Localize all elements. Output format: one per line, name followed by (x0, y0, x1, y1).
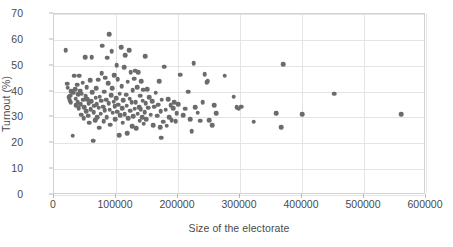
data-point (119, 84, 124, 89)
data-point (100, 43, 105, 48)
data-point (121, 98, 126, 103)
data-point (96, 77, 101, 82)
data-point (181, 113, 186, 118)
x-axis-tick-label: 600000 (407, 198, 442, 210)
data-point (222, 73, 227, 78)
data-point (122, 65, 127, 70)
data-point (105, 55, 110, 60)
y-axis-tick-label: 60 (0, 33, 23, 45)
data-point (99, 71, 104, 76)
x-axis-tick-mark (115, 194, 116, 198)
data-point (77, 74, 82, 79)
data-point (117, 133, 122, 138)
data-point (174, 111, 179, 116)
data-point (119, 45, 124, 50)
scatter-chart: Turnout (%) 010203040506070 010000020000… (0, 0, 453, 247)
data-point (166, 97, 171, 102)
gridline-vertical (426, 14, 427, 193)
data-point (109, 49, 114, 54)
data-point (91, 138, 96, 143)
data-point (146, 105, 151, 110)
data-point (87, 121, 92, 126)
y-axis-tick-label: 10 (0, 162, 23, 174)
data-point (157, 79, 162, 84)
data-point (121, 120, 126, 125)
data-point (151, 123, 156, 128)
data-point (139, 79, 144, 84)
data-point (202, 72, 207, 77)
data-point (210, 123, 215, 128)
data-point (155, 114, 160, 119)
data-point (134, 100, 139, 105)
data-point (126, 116, 131, 121)
data-point (109, 93, 114, 98)
data-point (207, 118, 212, 123)
y-axis-tick-label: 50 (0, 59, 23, 71)
data-point (103, 75, 108, 80)
data-point (90, 55, 95, 60)
data-point (63, 48, 68, 53)
data-point (123, 53, 128, 58)
gridline-horizontal (54, 40, 424, 41)
data-point (160, 98, 165, 103)
gridline-horizontal (54, 66, 424, 67)
data-point (72, 73, 77, 78)
data-point (186, 89, 191, 94)
x-axis-tick-label: 300000 (221, 198, 256, 210)
data-point (300, 112, 305, 117)
data-point (143, 54, 148, 59)
x-axis-tick-mark (53, 194, 54, 198)
data-point (196, 110, 201, 115)
data-point (91, 110, 96, 115)
data-point (114, 63, 119, 68)
y-axis-tick-label: 30 (0, 110, 23, 122)
data-point (132, 76, 137, 81)
data-point (68, 100, 73, 105)
data-point (113, 117, 118, 122)
data-point (142, 121, 147, 126)
data-point (86, 114, 91, 119)
x-axis-tick-mark (239, 194, 240, 198)
x-axis-tick-label: 400000 (283, 198, 318, 210)
gridline-horizontal (54, 169, 424, 170)
x-axis-label: Size of the electorate (53, 222, 425, 234)
data-point (178, 72, 183, 77)
data-point (183, 106, 188, 111)
data-point (188, 117, 193, 122)
x-axis-tick-mark (425, 194, 426, 198)
data-point (124, 103, 129, 108)
data-point (205, 79, 210, 84)
data-point (110, 86, 115, 91)
gridline-horizontal (54, 143, 424, 144)
gridline-vertical (364, 14, 365, 193)
data-point (193, 105, 198, 110)
data-point (117, 91, 122, 96)
data-point (332, 91, 337, 96)
x-axis-tick-label: 100000 (97, 198, 132, 210)
data-point (153, 90, 158, 95)
data-point (191, 61, 196, 66)
data-point (176, 102, 181, 107)
data-point (173, 119, 178, 124)
data-point (163, 107, 168, 112)
data-point (281, 62, 286, 67)
x-axis-tick-label: 0 (50, 198, 56, 210)
gridline-horizontal (54, 117, 424, 118)
gridline-horizontal (54, 14, 424, 15)
data-point (158, 109, 163, 114)
x-axis-tick-mark (301, 194, 302, 198)
data-point (232, 94, 237, 99)
data-point (239, 104, 244, 109)
data-point (150, 99, 155, 104)
data-point (83, 55, 88, 60)
data-point (251, 119, 256, 124)
data-point (94, 86, 99, 91)
data-point (85, 85, 90, 90)
data-point (214, 111, 219, 116)
data-point (75, 83, 80, 88)
data-point (138, 93, 143, 98)
x-axis-tick-label: 200000 (159, 198, 194, 210)
data-point (171, 106, 176, 111)
x-axis-tick-mark (363, 194, 364, 198)
data-point (134, 126, 139, 131)
